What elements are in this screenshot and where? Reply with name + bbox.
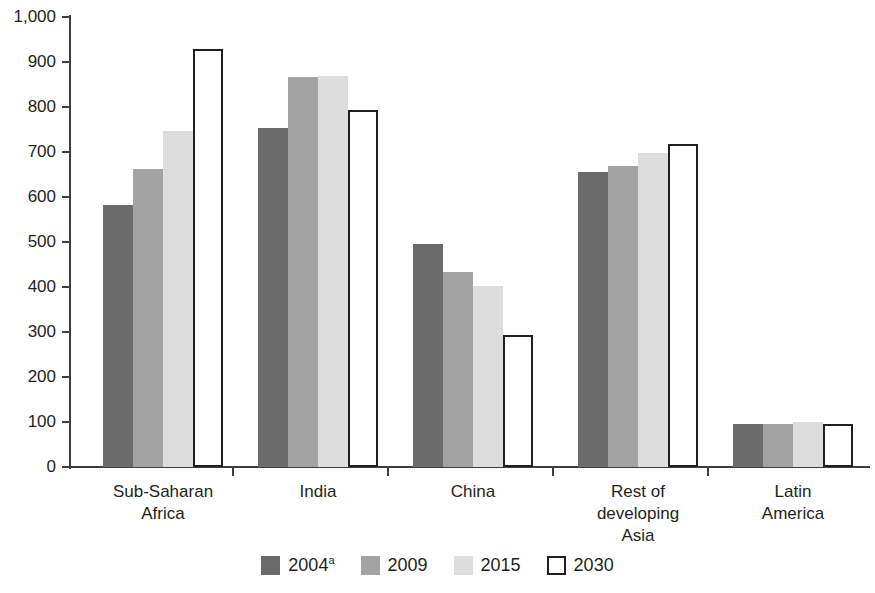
legend-item[interactable]: 2015 — [454, 556, 521, 575]
legend-swatch-icon — [261, 556, 280, 575]
bar — [763, 424, 793, 467]
bar-group — [733, 17, 853, 467]
bar — [793, 422, 823, 467]
bar — [638, 153, 668, 467]
legend-label-text: 2015 — [481, 555, 521, 575]
y-axis-tick-label: 200 — [0, 368, 56, 385]
bar — [823, 424, 853, 467]
x-axis-category-label-line: Africa — [68, 503, 258, 525]
bar — [473, 286, 503, 467]
bar — [733, 424, 763, 467]
bar — [103, 205, 133, 467]
legend-swatch-icon — [547, 556, 566, 575]
x-axis-tick — [232, 467, 234, 476]
legend-item[interactable]: 2004a — [261, 556, 334, 575]
bar — [503, 335, 533, 467]
x-axis-tick — [707, 467, 709, 476]
y-axis-tick-label: 100 — [0, 413, 56, 430]
bar — [348, 110, 378, 467]
x-axis-category-label: LatinAmerica — [698, 481, 875, 525]
y-axis-tick-label: 800 — [0, 98, 56, 115]
x-axis-category-label-line: China — [378, 481, 568, 503]
y-axis-tick-label: 600 — [0, 188, 56, 205]
x-axis-tick — [552, 467, 554, 476]
bar-group — [578, 17, 698, 467]
y-axis-tick-label: 1,000 — [0, 8, 56, 25]
bar-group — [258, 17, 378, 467]
y-axis-tick-label: 500 — [0, 233, 56, 250]
legend-label-text: 2009 — [388, 555, 428, 575]
bar — [288, 77, 318, 467]
y-axis-tick-label: 0 — [0, 458, 56, 475]
bar — [258, 128, 288, 467]
legend-label-footnote-marker: a — [328, 554, 334, 566]
x-axis-category-label-line: America — [698, 503, 875, 525]
bar — [163, 131, 193, 467]
y-axis-tick-label: 700 — [0, 143, 56, 160]
bar — [193, 49, 223, 467]
bar-chart: 01002003004005006007008009001,000 Sub-Sa… — [0, 0, 875, 593]
legend-label-text: 2004 — [288, 555, 328, 575]
x-axis-category-label-line: Latin — [698, 481, 875, 503]
legend-label: 2004a — [288, 556, 334, 575]
plot-area — [70, 17, 870, 467]
bar — [668, 144, 698, 467]
legend-label: 2009 — [388, 556, 428, 575]
bar — [578, 172, 608, 467]
bar — [318, 76, 348, 468]
bar — [133, 169, 163, 467]
y-axis-tick-label: 300 — [0, 323, 56, 340]
legend-item[interactable]: 2009 — [361, 556, 428, 575]
legend-swatch-icon — [454, 556, 473, 575]
x-axis-tick — [387, 467, 389, 476]
legend-label: 2015 — [481, 556, 521, 575]
bar — [608, 166, 638, 467]
bar — [443, 272, 473, 467]
chart-legend: 2004a200920152030 — [0, 556, 875, 575]
bar-group — [413, 17, 533, 467]
legend-label-text: 2030 — [574, 555, 614, 575]
y-axis-tick-label: 900 — [0, 53, 56, 70]
x-axis-category-label: China — [378, 481, 568, 503]
legend-swatch-icon — [361, 556, 380, 575]
legend-item[interactable]: 2030 — [547, 556, 614, 575]
y-axis-tick-label: 400 — [0, 278, 56, 295]
x-axis-category-label-line: Asia — [543, 525, 733, 547]
bar — [413, 244, 443, 467]
legend-label: 2030 — [574, 556, 614, 575]
bar-group — [103, 17, 223, 467]
